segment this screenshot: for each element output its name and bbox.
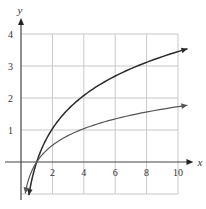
- x-axis-arrow-icon: [186, 159, 193, 165]
- y-tick-label: 1: [8, 125, 13, 136]
- y-tick-label: 3: [8, 61, 13, 72]
- x-axis-label: x: [196, 156, 202, 168]
- y-tick-label: 4: [8, 29, 13, 40]
- labels: 2468101234xy: [8, 4, 202, 178]
- y-axis-label: y: [17, 4, 23, 16]
- x-tick-label: 10: [173, 167, 183, 178]
- grid: [21, 34, 178, 194]
- x-tick-label: 6: [113, 167, 118, 178]
- x-tick-label: 8: [144, 167, 149, 178]
- chart: 2468101234xy: [0, 0, 206, 209]
- curves: [24, 48, 188, 195]
- y-axis-arrow-icon: [18, 18, 24, 25]
- x-tick-label: 4: [81, 167, 86, 178]
- x-tick-label: 2: [50, 167, 55, 178]
- curve-end-arrow-icon: [181, 103, 187, 109]
- y-tick-label: 2: [8, 93, 13, 104]
- curve-line: [25, 105, 187, 193]
